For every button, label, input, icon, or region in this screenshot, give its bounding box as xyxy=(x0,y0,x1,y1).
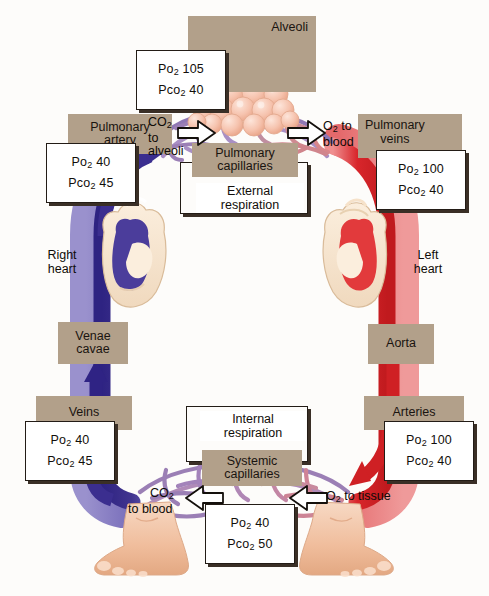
tissue-pco2-subscript: 2 xyxy=(249,542,254,552)
co2-to-alveoli-line2: to xyxy=(148,131,158,145)
internal-respiration-line2: respiration xyxy=(224,426,282,440)
o2-to-tissue-line1b: to tissue xyxy=(341,489,391,503)
alveolar-po2-row: Po2 105 xyxy=(143,59,219,80)
pulmonary-veins-pco2-subscript: 2 xyxy=(420,188,425,198)
arteries-po2-label: Po xyxy=(406,433,422,447)
arteries-pco2-value: 40 xyxy=(437,454,451,468)
value-box-pulmonary-veins: Po2 100 Pco2 40 xyxy=(376,150,466,210)
plate-aorta: Aorta xyxy=(368,324,434,364)
o2-to-tissue-line1: O xyxy=(326,489,336,503)
pulmonary-veins-po2-value: 100 xyxy=(423,162,444,176)
label-co2-to-alveoli: CO2 to alveoli xyxy=(148,116,204,158)
label-right-heart: Right heart xyxy=(32,248,92,276)
external-respiration-line2: respiration xyxy=(221,198,279,212)
tissue-po2-subscript: 2 xyxy=(246,521,251,531)
pulmonary-artery-po2-value: 40 xyxy=(96,155,110,169)
label-internal-respiration: Internal respiration xyxy=(200,411,306,441)
plate-venae-cavae: Venae cavae xyxy=(58,322,128,364)
o2-to-blood-arrow-icon xyxy=(286,118,328,148)
co2-to-blood-subscript: 2 xyxy=(169,491,174,501)
arteries-pco2-row: Pco2 40 xyxy=(391,451,467,472)
label-external-respiration: External respiration xyxy=(196,183,304,213)
value-box-arteries: Po2 100 Pco2 40 xyxy=(384,421,474,481)
label-systemic-capillaries-line1: Systemic xyxy=(227,454,278,468)
plate-systemic-capillaries: Systemic capillaries xyxy=(202,450,302,486)
o2-to-blood-line1b: to xyxy=(338,119,352,133)
right-heart-line1: Right xyxy=(47,248,76,262)
value-box-pulmonary-artery: Po2 40 Pco2 45 xyxy=(46,143,136,203)
label-venae-cavae-line1: Venae xyxy=(75,329,110,343)
o2-to-blood-line1: O xyxy=(323,119,333,133)
value-box-veins: Po2 40 Pco2 45 xyxy=(25,421,115,481)
value-box-tissue: Po2 40 Pco2 50 xyxy=(205,504,295,564)
label-veins: Veins xyxy=(69,406,100,420)
pulmonary-artery-pco2-row: Pco2 45 xyxy=(53,173,129,194)
right-heart-illustration xyxy=(102,199,165,307)
label-left-heart: Left heart xyxy=(400,248,456,276)
arteries-po2-value: 100 xyxy=(431,433,452,447)
label-pulmonary-artery-line1: Pulmonary xyxy=(90,120,150,134)
left-heart-illustration xyxy=(323,200,386,307)
co2-to-blood-line2: to blood xyxy=(128,502,172,516)
co2-to-alveoli-line3: alveoli xyxy=(148,144,183,158)
pulmonary-artery-pco2-value: 45 xyxy=(99,176,113,190)
veins-po2-label: Po xyxy=(51,433,67,447)
tissue-pco2-label: Pco xyxy=(227,537,249,551)
label-pulmonary-capillaries-line1: Pulmonary xyxy=(215,146,275,160)
veins-po2-value: 40 xyxy=(75,433,89,447)
label-pulmonary-capillaries-line2: capillaries xyxy=(217,159,273,173)
pulmonary-artery-pco2-label: Pco xyxy=(68,176,90,190)
alveolar-pco2-subscript: 2 xyxy=(180,88,185,98)
veins-po2-row: Po2 40 xyxy=(32,430,108,451)
pulmonary-veins-pco2-value: 40 xyxy=(429,183,443,197)
veins-po2-subscript: 2 xyxy=(66,438,71,448)
pulmonary-veins-po2-label: Po xyxy=(398,162,414,176)
alveolar-pco2-value: 40 xyxy=(189,83,203,97)
veins-pco2-value: 45 xyxy=(78,454,92,468)
o2-to-blood-line2: blood xyxy=(323,135,354,149)
label-venae-cavae-line2: cavae xyxy=(76,342,109,356)
right-heart-line2: heart xyxy=(48,262,77,276)
alveolar-po2-label: Po xyxy=(158,62,174,76)
value-box-alveolar: Po2 105 Pco2 40 xyxy=(136,50,226,110)
tissue-po2-value: 40 xyxy=(255,516,269,530)
pulmonary-veins-po2-row: Po2 100 xyxy=(383,159,459,180)
pulmonary-veins-pco2-label: Pco xyxy=(398,183,420,197)
label-arteries: Arteries xyxy=(392,406,435,420)
veins-pco2-row: Pco2 45 xyxy=(32,451,108,472)
alveolar-pco2-label: Pco xyxy=(158,83,180,97)
label-co2-to-blood: CO2 to blood xyxy=(128,487,198,516)
alveolar-pco2-row: Pco2 40 xyxy=(143,80,219,101)
left-heart-line2: heart xyxy=(414,262,443,276)
label-aorta: Aorta xyxy=(386,337,416,351)
arteries-pco2-subscript: 2 xyxy=(428,459,433,469)
alveolar-po2-value: 105 xyxy=(183,62,204,76)
tissue-po2-label: Po xyxy=(231,516,247,530)
pulmonary-artery-po2-label: Po xyxy=(72,155,88,169)
co2-to-alveoli-subscript: 2 xyxy=(167,120,172,130)
label-alveoli: Alveoli xyxy=(271,21,308,35)
internal-respiration-line1: Internal xyxy=(232,412,274,426)
external-respiration-line1: External xyxy=(227,184,273,198)
left-heart-line1: Left xyxy=(418,248,439,262)
tissue-po2-row: Po2 40 xyxy=(212,513,288,534)
pulmonary-artery-po2-row: Po2 40 xyxy=(53,152,129,173)
pulmonary-artery-po2-subscript: 2 xyxy=(87,160,92,170)
label-o2-to-tissue: O2 to tissue xyxy=(326,490,422,506)
veins-pco2-label: Pco xyxy=(47,454,69,468)
arteries-po2-subscript: 2 xyxy=(422,438,427,448)
co2-to-blood-line1: CO xyxy=(150,486,169,500)
pulmonary-artery-pco2-subscript: 2 xyxy=(90,181,95,191)
arteries-po2-row: Po2 100 xyxy=(391,430,467,451)
label-systemic-capillaries-line2: capillaries xyxy=(224,467,280,481)
pulmonary-veins-pco2-row: Pco2 40 xyxy=(383,180,459,201)
alveolar-po2-subscript: 2 xyxy=(174,67,179,77)
label-pulmonary-veins-line2: veins xyxy=(380,132,409,146)
tissue-pco2-row: Pco2 50 xyxy=(212,534,288,555)
tissue-pco2-value: 50 xyxy=(258,537,272,551)
veins-pco2-subscript: 2 xyxy=(69,459,74,469)
arteries-pco2-label: Pco xyxy=(406,454,428,468)
diagram-canvas: Alveoli Pulmonary artery Pulmonary veins… xyxy=(0,0,489,596)
plate-pulmonary-capillaries: Pulmonary capillaries xyxy=(192,143,298,177)
label-o2-to-blood: O2 to blood xyxy=(323,120,379,149)
